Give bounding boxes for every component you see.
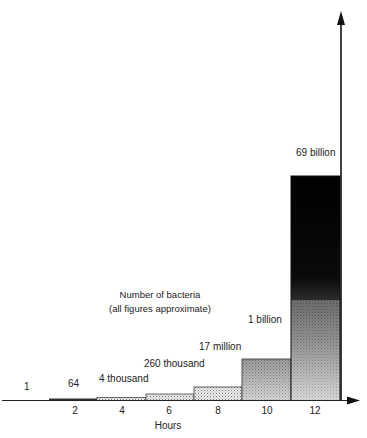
chart-annotation: Number of bacteria (all figures approxim… [108,288,212,316]
value-label-6h: 260 thousand [144,358,205,369]
bar-6h [146,394,194,401]
y-axis-arrow-icon [337,11,345,25]
x-tick-6: 6 [166,405,172,416]
bar-8h [194,387,242,401]
x-tick-2: 2 [72,405,78,416]
value-label-0h: 1 [24,381,30,392]
x-tick-12: 12 [309,405,320,416]
bacteria-growth-chart [0,0,367,438]
x-axis-label: Hours [155,420,182,431]
value-label-8h: 17 million [199,341,241,352]
x-tick-4: 4 [119,405,125,416]
x-axis-arrow-icon [347,397,360,405]
value-label-12h: 69 billion [296,147,335,158]
value-label-10h: 1 billion [248,314,282,325]
value-label-4h: 4 thousand [99,373,149,384]
annotation-line-1: Number of bacteria [108,288,212,302]
annotation-line-2: (all figures approximate) [108,302,212,316]
x-tick-8: 8 [215,405,221,416]
value-label-2h: 64 [68,378,79,389]
x-tick-10: 10 [261,405,272,416]
